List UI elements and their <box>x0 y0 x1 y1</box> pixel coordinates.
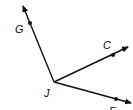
label-e: E <box>109 105 117 110</box>
point-c <box>111 53 115 57</box>
point-g <box>28 21 32 25</box>
ray-diagram: G C J E <box>0 0 133 110</box>
label-j: J <box>43 87 50 99</box>
label-g: G <box>15 23 24 35</box>
ray-jc <box>54 47 128 82</box>
ray-je <box>54 82 131 103</box>
point-e <box>114 97 118 101</box>
ray-jg <box>23 6 54 82</box>
label-c: C <box>103 39 111 51</box>
